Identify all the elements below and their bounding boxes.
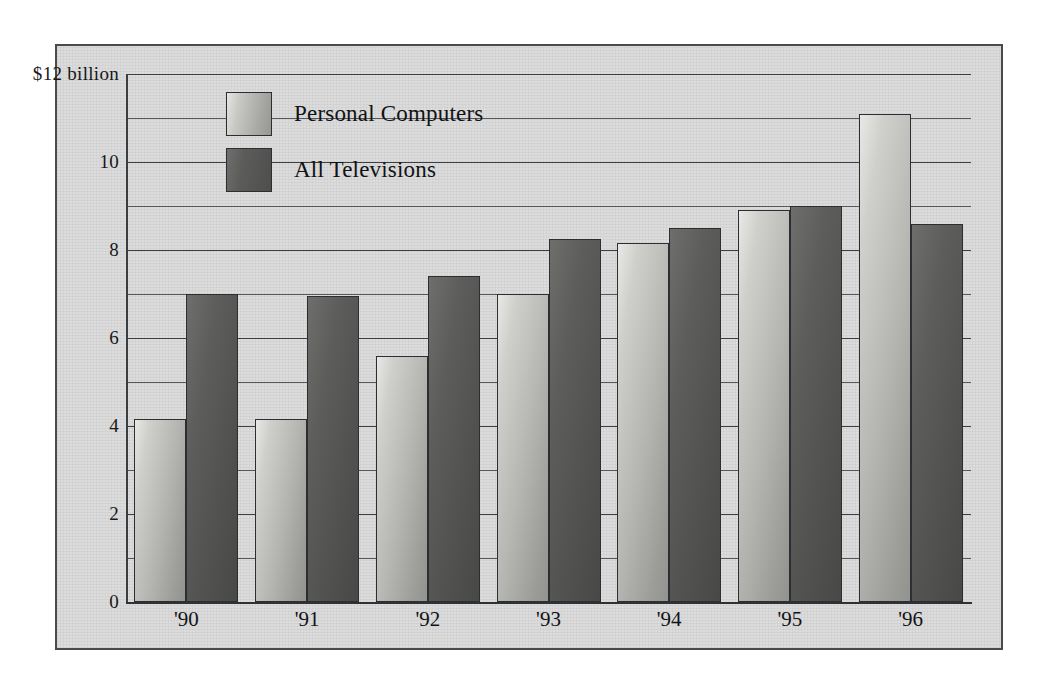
bar-tv-96 xyxy=(911,224,963,602)
bar-pc-93 xyxy=(497,294,549,602)
bar-pc-92 xyxy=(376,356,428,602)
bar-tv-91 xyxy=(307,296,359,602)
y-tick-label: 6 xyxy=(109,327,119,349)
x-axis-line xyxy=(126,602,972,604)
bar-tv-93 xyxy=(549,239,601,602)
x-tick-label: '96 xyxy=(898,607,923,632)
bar-tv-92 xyxy=(428,276,480,602)
bar-pc-90 xyxy=(134,419,186,602)
y-tick-label: 10 xyxy=(99,151,119,173)
x-tick-label: '94 xyxy=(657,607,682,632)
y-tick-label: 0 xyxy=(109,591,119,613)
y-tick-label: $12 billion xyxy=(33,63,119,85)
plot-area xyxy=(126,74,971,602)
y-tick-label: 2 xyxy=(109,503,119,525)
bar-tv-95 xyxy=(790,206,842,602)
x-tick-label: '90 xyxy=(174,607,199,632)
bar-tv-90 xyxy=(186,294,238,602)
y-axis-line xyxy=(126,74,128,603)
bar-pc-96 xyxy=(859,114,911,602)
x-tick-label: '92 xyxy=(415,607,440,632)
chart-frame: Personal Computers All Televisions 02468… xyxy=(55,44,1003,650)
x-tick-label: '93 xyxy=(536,607,561,632)
bar-tv-94 xyxy=(669,228,721,602)
bar-pc-94 xyxy=(617,243,669,602)
bar-pc-91 xyxy=(255,419,307,602)
y-tick-label: 8 xyxy=(109,239,119,261)
x-tick-label: '95 xyxy=(778,607,803,632)
bar-pc-95 xyxy=(738,210,790,602)
y-tick-label: 4 xyxy=(109,415,119,437)
x-tick-label: '91 xyxy=(295,607,320,632)
